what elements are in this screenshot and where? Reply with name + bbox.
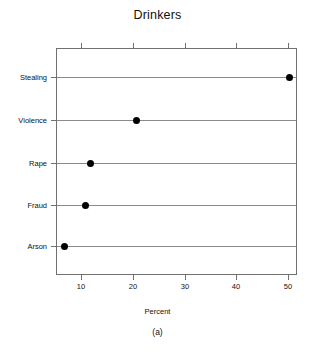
chart-title: Drinkers xyxy=(0,8,315,22)
y-axis-label-violence: Violence xyxy=(18,116,47,125)
category-line-fraud xyxy=(57,205,296,206)
x-axis-label-20: 20 xyxy=(121,282,145,291)
x-tick-30 xyxy=(185,275,186,280)
x-tick-50 xyxy=(288,275,289,280)
x-tick-40 xyxy=(236,275,237,280)
category-line-arson xyxy=(57,246,296,247)
y-axis-label-rape: Rape xyxy=(29,159,47,168)
x-tick-top-30 xyxy=(185,43,186,48)
plot-panel xyxy=(56,48,297,275)
data-point-stealing xyxy=(286,74,293,81)
category-line-violence xyxy=(57,120,296,121)
data-point-violence xyxy=(133,117,140,124)
x-axis-title: Percent xyxy=(0,307,315,316)
x-tick-10 xyxy=(81,275,82,280)
category-line-stealing xyxy=(57,77,296,78)
y-axis-label-arson: Arson xyxy=(27,242,47,251)
dot-plot-figure: Drinkers Stealing Violence Rape Fraud Ar… xyxy=(0,0,315,356)
data-point-fraud xyxy=(82,202,89,209)
x-axis-label-40: 40 xyxy=(224,282,248,291)
y-axis-label-fraud: Fraud xyxy=(27,201,47,210)
x-tick-20 xyxy=(133,275,134,280)
x-tick-top-10 xyxy=(81,43,82,48)
x-tick-top-20 xyxy=(133,43,134,48)
x-tick-top-50 xyxy=(288,43,289,48)
data-point-rape xyxy=(87,160,94,167)
y-axis-label-stealing: Stealing xyxy=(20,73,47,82)
data-point-arson xyxy=(61,243,68,250)
x-tick-top-40 xyxy=(236,43,237,48)
x-axis-label-10: 10 xyxy=(69,282,93,291)
figure-caption: (a) xyxy=(0,327,315,337)
x-axis-label-50: 50 xyxy=(276,282,300,291)
x-axis-label-30: 30 xyxy=(173,282,197,291)
